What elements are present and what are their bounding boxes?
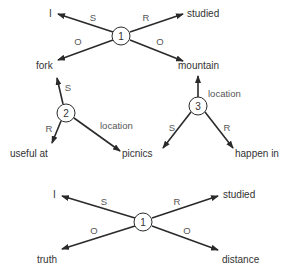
concept-studied: studied (223, 189, 255, 200)
edge-r-to-studied (152, 196, 218, 218)
concept-truth: truth (37, 254, 57, 265)
edge-r-to-useful-at (52, 121, 61, 143)
rel-label-location: location (100, 120, 133, 131)
edge-s-to-picnics (163, 112, 191, 148)
rel-label-s: S (169, 122, 175, 133)
concept-picnics: picnics (122, 148, 153, 159)
concept-i: I (53, 189, 56, 200)
propositional-network-diagram: 1 S R O O I studied fork mountain 2 S R … (0, 0, 287, 268)
concept-useful-at: useful at (10, 148, 48, 159)
rel-label-s: S (90, 12, 96, 23)
concept-studied: studied (187, 8, 219, 19)
rel-label-o: O (74, 36, 81, 47)
rel-label-o: O (183, 225, 190, 236)
rel-label-r: R (143, 12, 150, 23)
node-1-number: 1 (140, 217, 146, 228)
concept-i: I (49, 8, 52, 19)
proposition-1-bottom: 1 S R O O I studied truth distance (37, 189, 260, 265)
node-3-number: 3 (195, 101, 201, 112)
concept-mountain: mountain (178, 60, 219, 71)
rel-label-s: S (65, 82, 71, 93)
concept-distance: distance (222, 254, 260, 265)
node-2-number: 2 (63, 108, 69, 119)
edge-o-to-truth (62, 226, 135, 249)
concept-fork: fork (36, 60, 54, 71)
edge-s-to-i (62, 196, 135, 218)
rel-label-o: O (156, 36, 163, 47)
proposition-2: 2 S R location useful at picnics (10, 78, 153, 159)
rel-label-r: R (224, 122, 231, 133)
rel-label-r: R (174, 196, 181, 207)
concept-happen-in: happen in (235, 148, 279, 159)
proposition-3: 3 location S R happen in (163, 76, 279, 159)
edge-s-to-fork (57, 78, 63, 104)
rel-label-location: location (208, 88, 241, 99)
edge-o-to-fork (58, 40, 113, 60)
proposition-1-top: 1 S R O O I studied fork mountain (36, 8, 219, 71)
rel-label-r: R (46, 123, 53, 134)
node-1-number: 1 (118, 31, 124, 42)
rel-label-s: S (101, 196, 107, 207)
rel-label-o: O (90, 225, 97, 236)
edge-s-to-i (58, 14, 113, 32)
edge-r-to-studied (130, 14, 183, 32)
